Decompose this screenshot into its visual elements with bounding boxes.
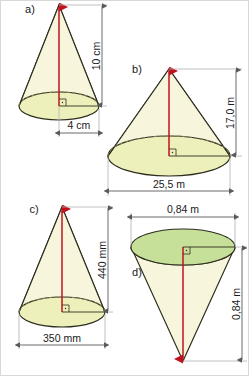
cone-diagrams-svg: 10 cm 4 cm a) 17,0 m (1, 1, 249, 376)
cone-d-base-label: 0,84 m (167, 203, 199, 215)
cone-d-height-label: 0,84 m (230, 288, 242, 320)
cone-c-right-angle-dot (65, 308, 66, 309)
panel-label-a: a) (25, 3, 35, 15)
cone-a-base-label: 4 cm (68, 119, 91, 131)
cone-panel-c: 440 mm 350 mm c) (19, 203, 113, 349)
cone-b-right-angle-dot (172, 152, 173, 153)
cone-panel-d: 0,84 m 0,84 m d) (131, 203, 247, 361)
cone-d-right-angle-dot (186, 250, 187, 251)
panel-label-c: c) (29, 203, 38, 215)
cone-c-base-label: 350 mm (43, 332, 81, 344)
cone-panel-b: 17,0 m 25,5 m b) (108, 63, 242, 196)
cone-b-height-label: 17,0 m (224, 97, 236, 129)
panel-label-d: d) (132, 266, 142, 278)
cone-figure-sheet: 10 cm 4 cm a) 17,0 m (0, 0, 249, 376)
cone-c-height-label: 440 mm (96, 241, 108, 279)
cone-a-right-angle-dot (62, 102, 63, 103)
cone-b-base-label: 25,5 m (153, 178, 185, 190)
cone-a-height-label: 10 cm (90, 41, 102, 70)
panel-label-b: b) (132, 63, 142, 75)
cone-panel-a: 10 cm 4 cm a) (19, 3, 107, 137)
